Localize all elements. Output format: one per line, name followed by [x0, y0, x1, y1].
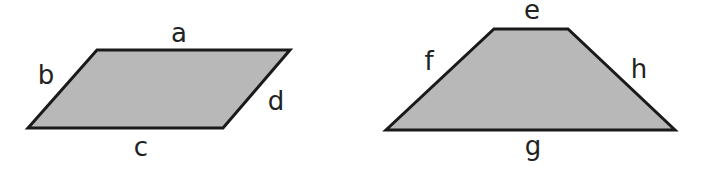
- trapezoid-group: e f g h: [386, 0, 675, 161]
- parallelogram-shape: [28, 50, 290, 128]
- label-side-f: f: [424, 46, 434, 76]
- label-side-g: g: [525, 131, 542, 161]
- label-side-e: e: [524, 0, 540, 25]
- parallelogram-group: a b c d: [28, 18, 290, 162]
- diagram-canvas: a b c d e f g h: [0, 0, 703, 172]
- label-side-b: b: [38, 60, 55, 90]
- quadrilaterals-figure: a b c d e f g h: [0, 0, 703, 172]
- label-side-h: h: [631, 54, 647, 84]
- label-side-a: a: [171, 18, 187, 48]
- label-side-c: c: [134, 132, 148, 162]
- label-side-d: d: [268, 86, 285, 116]
